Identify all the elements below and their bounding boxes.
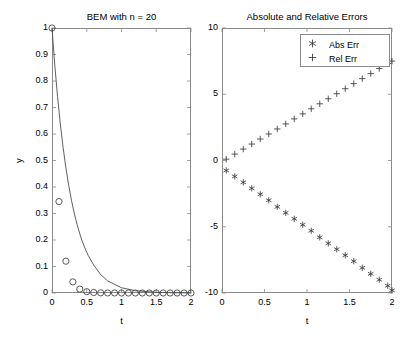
- left-ytick-label: 0.8: [6, 76, 52, 85]
- left-ytick-label: 0.6: [6, 129, 52, 138]
- left-ytick-label: 0.9: [6, 50, 52, 59]
- legend-label-rel-err: Rel Err: [323, 54, 357, 64]
- left-ytick-label: 0.2: [6, 235, 52, 244]
- figure-canvas: BEM with n = 20 y t Absolute and Relativ…: [0, 0, 402, 338]
- left-ytick-label: 1: [6, 23, 52, 32]
- plus-marker-icon: [301, 53, 323, 64]
- right-xtick-label: 1: [287, 298, 327, 307]
- left-ytick-label: 0.7: [6, 103, 52, 112]
- right-xtick-label: 0: [202, 298, 242, 307]
- legend-item-rel-err: Rel Err: [301, 52, 391, 65]
- right-plot-legend: Abs Err Rel Err: [300, 34, 390, 67]
- right-ytick-label: 10: [176, 23, 222, 32]
- asterisk-marker-icon: [301, 39, 323, 50]
- left-ytick-label: 0.1: [6, 262, 52, 271]
- left-ytick-label: 0.4: [6, 182, 52, 191]
- right-xtick-label: 0.5: [245, 298, 285, 307]
- left-ytick-label: 0.5: [6, 156, 52, 165]
- legend-item-abs-err: Abs Err: [301, 38, 391, 51]
- legend-label-abs-err: Abs Err: [323, 40, 359, 50]
- left-ytick-label: 0.3: [6, 209, 52, 218]
- right-ytick-label: -10: [176, 288, 222, 297]
- left-ytick-label: 0: [6, 288, 52, 297]
- right-xtick-label: 2: [372, 298, 402, 307]
- right-xtick-label: 1.5: [330, 298, 370, 307]
- right-ytick-label: -5: [176, 222, 222, 231]
- right-ytick-label: 5: [176, 89, 222, 98]
- right-ytick-label: 0: [176, 156, 222, 165]
